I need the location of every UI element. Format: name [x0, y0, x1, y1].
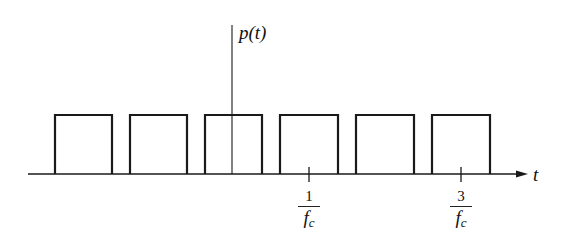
- pulse-5: [356, 115, 414, 174]
- tick-label-denominator: fc: [294, 208, 324, 233]
- x-axis-label: t: [533, 164, 538, 186]
- pulse-3: [205, 115, 262, 174]
- pulse-2: [130, 115, 187, 174]
- fraction-bar: [450, 206, 472, 207]
- pulse-6: [432, 115, 490, 174]
- tick-label-denominator: fc: [446, 208, 476, 233]
- pulse-train-diagram: [0, 0, 572, 245]
- pulse-4: [280, 115, 338, 174]
- tick-label-numerator: 1: [294, 188, 324, 204]
- y-axis-label: p(t): [239, 22, 266, 44]
- tick-label-3-over-fc: 3 fc: [446, 188, 476, 233]
- tick-label-numerator: 3: [446, 188, 476, 204]
- pulse-group: [55, 115, 490, 174]
- pulse-1: [55, 115, 112, 174]
- fraction-bar: [298, 206, 320, 207]
- tick-label-1-over-fc: 1 fc: [294, 188, 324, 233]
- time-axis-arrowhead-icon: [516, 171, 528, 178]
